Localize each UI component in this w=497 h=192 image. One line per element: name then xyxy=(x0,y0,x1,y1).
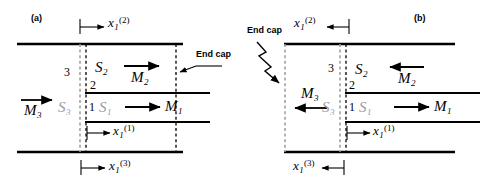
area-3-sub-b: 3 xyxy=(330,107,335,117)
mass-flow-1-sub-a: 1 xyxy=(178,106,183,116)
area-1-base-a: S xyxy=(99,99,107,115)
dim-x2-base-b: x xyxy=(294,15,300,30)
dim-x1-sup-a: (1) xyxy=(124,123,135,133)
region-1-label-b: 1 xyxy=(349,101,355,113)
area-3-label-b: S3 xyxy=(322,100,334,117)
dim-x2-sup-b: (2) xyxy=(305,15,316,25)
end-cap-leader-arrow-a xyxy=(180,66,196,72)
dim-x1-base-a: x xyxy=(113,123,119,138)
panel-tag-a: (a) xyxy=(31,14,42,23)
area-1-label-b: S1 xyxy=(359,100,371,117)
area-2-label-a: S2 xyxy=(95,60,107,77)
mass-flow-3-sub-b: 3 xyxy=(314,93,319,103)
region-2-label-a: 2 xyxy=(90,79,96,91)
mass-flow-2-base-a: M xyxy=(131,69,144,85)
panel-tag-b: (b) xyxy=(414,14,426,23)
dim-x1-sub-b: 1 xyxy=(379,130,384,140)
region-2-label-b: 2 xyxy=(349,79,355,91)
dim-x3-sub-a: 1 xyxy=(115,165,120,175)
dim-x2-label-a: x1(2) xyxy=(108,16,130,32)
mass-flow-3-base-a: M xyxy=(24,102,37,118)
dim-x2-label-b: x1(2) xyxy=(294,16,316,32)
area-1-sub-a: 1 xyxy=(107,107,112,117)
dim-x3-label-b: x1(3) xyxy=(293,159,315,175)
mass-flow-2-label-b: M2 xyxy=(398,71,415,88)
area-2-label-b: S2 xyxy=(355,62,367,79)
area-1-sub-b: 1 xyxy=(367,107,372,117)
area-2-sub-b: 2 xyxy=(363,69,368,79)
region-3-label-a: 3 xyxy=(64,66,70,78)
dim-x1-sub-a: 1 xyxy=(119,130,124,140)
region-3-label-b: 3 xyxy=(328,62,334,74)
end-cap-leader-b xyxy=(257,42,279,83)
dim-x1-label-b: x1(1) xyxy=(373,124,395,140)
mass-flow-2-label-a: M2 xyxy=(131,70,148,87)
mass-flow-3-label-a: M3 xyxy=(24,103,41,120)
area-3-base-b: S xyxy=(322,99,330,115)
region-1-label-a: 1 xyxy=(89,101,95,113)
mass-flow-2-sub-a: 2 xyxy=(144,77,149,87)
mass-flow-1-label-b: M1 xyxy=(434,99,451,116)
end-cap-label-a: End cap xyxy=(196,50,231,59)
mass-flow-2-base-b: M xyxy=(398,70,411,86)
dim-x2-sup-a: (2) xyxy=(119,15,130,25)
area-3-label-a: S3 xyxy=(58,100,70,117)
mass-flow-2-sub-b: 2 xyxy=(411,78,416,88)
figure-canvas: (a) End cap x1(2) 3 S2 2 M2 M3 S3 1 S1 M… xyxy=(0,0,497,192)
dim-x2-sub-a: 1 xyxy=(114,22,119,32)
mass-flow-1-base-a: M xyxy=(165,98,178,114)
dim-x3-base-a: x xyxy=(109,158,115,173)
mass-flow-3-sub-a: 3 xyxy=(37,110,42,120)
dim-x3-sup-a: (3) xyxy=(120,158,131,168)
area-3-sub-a: 3 xyxy=(66,107,71,117)
dim-x1-sup-b: (1) xyxy=(384,123,395,133)
end-cap-label-b: End cap xyxy=(247,26,282,35)
area-1-base-b: S xyxy=(359,99,367,115)
area-2-base-a: S xyxy=(95,59,103,75)
area-2-base-b: S xyxy=(355,61,363,77)
dim-x3-label-a: x1(3) xyxy=(109,159,131,175)
area-3-base-a: S xyxy=(58,99,66,115)
dim-x3-sup-b: (3) xyxy=(304,158,315,168)
dim-x3-base-b: x xyxy=(293,158,299,173)
mass-flow-3-label-b: M3 xyxy=(301,86,318,103)
area-2-sub-a: 2 xyxy=(103,67,108,77)
mass-flow-3-base-b: M xyxy=(301,85,314,101)
dim-x2-sub-b: 1 xyxy=(300,22,305,32)
dim-x3-sub-b: 1 xyxy=(299,165,304,175)
mass-flow-1-label-a: M1 xyxy=(165,99,182,116)
area-1-label-a: S1 xyxy=(99,100,111,117)
mass-flow-1-sub-b: 1 xyxy=(447,106,452,116)
dim-x1-label-a: x1(1) xyxy=(113,124,135,140)
mass-flow-1-base-b: M xyxy=(434,98,447,114)
dim-x2-base-a: x xyxy=(108,15,114,30)
dim-x1-base-b: x xyxy=(373,123,379,138)
